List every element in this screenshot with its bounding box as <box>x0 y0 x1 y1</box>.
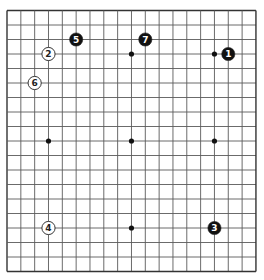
stone-white-6: 6 <box>28 76 41 89</box>
move-number: 5 <box>73 35 79 45</box>
star-point <box>212 51 217 56</box>
move-number: 3 <box>211 223 217 233</box>
move-number: 7 <box>142 35 148 45</box>
stone-white-4: 4 <box>42 221 55 234</box>
star-point <box>129 51 134 56</box>
stone-black-1: 1 <box>222 47 235 60</box>
star-point <box>129 138 134 143</box>
star-point <box>212 138 217 143</box>
stone-black-7: 7 <box>139 33 152 46</box>
stone-white-2: 2 <box>42 47 55 60</box>
stone-black-3: 3 <box>208 221 221 234</box>
go-board: 1234567 <box>0 0 264 280</box>
star-point <box>129 225 134 230</box>
star-point <box>46 138 51 143</box>
move-number: 2 <box>45 49 51 59</box>
move-number: 6 <box>32 78 38 88</box>
stone-black-5: 5 <box>70 33 83 46</box>
move-number: 4 <box>45 223 51 233</box>
move-number: 1 <box>225 49 231 59</box>
